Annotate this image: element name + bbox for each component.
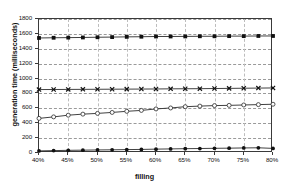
series-series-2	[37, 86, 275, 92]
y-tick-mark	[35, 78, 38, 79]
x-tick-mark	[67, 152, 68, 155]
x-tick-label: 70%	[199, 157, 229, 163]
data-point-marker	[271, 146, 275, 150]
data-point-marker	[213, 146, 217, 150]
data-point-marker	[125, 35, 129, 39]
y-tick-mark	[35, 48, 38, 49]
data-point-marker	[169, 147, 173, 151]
x-tick-label: 60%	[140, 157, 170, 163]
data-point-marker	[81, 148, 85, 152]
data-point-marker	[154, 35, 158, 39]
x-tick-label: 55%	[111, 157, 141, 163]
data-point-marker	[242, 146, 246, 150]
y-tick-mark	[35, 107, 38, 108]
x-tick-mark	[97, 152, 98, 155]
data-point-marker	[183, 35, 187, 39]
x-tick-mark	[38, 152, 39, 155]
data-point-marker	[52, 115, 56, 119]
x-tick-label: 75%	[228, 157, 258, 163]
x-tick-mark	[272, 152, 273, 155]
data-point-marker	[139, 148, 143, 152]
data-point-marker	[37, 36, 41, 40]
y-tick-mark	[35, 33, 38, 34]
data-point-marker	[271, 34, 275, 38]
data-point-marker	[198, 104, 202, 108]
data-point-marker	[213, 104, 217, 108]
data-point-marker	[66, 36, 70, 40]
data-point-marker	[198, 147, 202, 151]
data-point-marker	[213, 34, 217, 38]
x-tick-label: 40%	[23, 157, 53, 163]
y-tick-label: 0	[0, 149, 32, 155]
y-tick-mark	[35, 63, 38, 64]
data-point-marker	[81, 112, 85, 116]
x-tick-mark	[184, 152, 185, 155]
data-point-marker	[139, 108, 143, 112]
data-point-marker	[256, 146, 260, 150]
data-point-marker	[110, 35, 114, 39]
x-tick-mark	[155, 152, 156, 155]
data-point-marker	[96, 35, 100, 39]
data-point-marker	[96, 111, 100, 115]
x-tick-label: 45%	[52, 157, 82, 163]
x-tick-mark	[214, 152, 215, 155]
data-point-marker	[37, 116, 41, 120]
data-point-marker	[66, 113, 70, 117]
data-point-marker	[227, 146, 231, 150]
y-tick-mark	[35, 122, 38, 123]
x-tick-mark	[126, 152, 127, 155]
x-tick-label: 80%	[257, 157, 287, 163]
y-axis-title: generation time (milliseconds)	[10, 5, 19, 145]
data-point-marker	[154, 147, 158, 151]
data-series-layer	[39, 19, 273, 153]
data-point-marker	[52, 36, 56, 40]
y-tick-mark	[35, 18, 38, 19]
data-point-marker	[242, 103, 246, 107]
y-tick-mark	[35, 137, 38, 138]
data-point-marker	[169, 106, 173, 110]
data-point-marker	[183, 147, 187, 151]
data-point-marker	[271, 102, 275, 106]
y-tick-mark	[35, 92, 38, 93]
data-point-marker	[256, 34, 260, 38]
data-point-marker	[227, 103, 231, 107]
data-point-marker	[154, 107, 158, 111]
data-point-marker	[256, 103, 260, 107]
data-point-marker	[227, 34, 231, 38]
series-series-3	[37, 102, 275, 120]
x-axis-title: filling	[0, 172, 289, 181]
x-tick-mark	[243, 152, 244, 155]
data-point-marker	[183, 105, 187, 109]
series-series-1	[37, 34, 275, 40]
data-point-marker	[52, 149, 56, 153]
series-series-4	[37, 146, 275, 153]
data-point-marker	[125, 148, 129, 152]
data-point-marker	[139, 35, 143, 39]
data-point-marker	[110, 148, 114, 152]
x-tick-label: 50%	[82, 157, 112, 163]
data-point-marker	[198, 34, 202, 38]
data-point-marker	[125, 109, 129, 113]
x-tick-label: 65%	[169, 157, 199, 163]
data-point-marker	[169, 35, 173, 39]
data-point-marker	[242, 34, 246, 38]
data-point-marker	[110, 110, 114, 114]
chart-container: 020040060080010001200140016001800 40%45%…	[0, 0, 289, 188]
plot-area	[38, 18, 272, 152]
data-point-marker	[81, 36, 85, 40]
